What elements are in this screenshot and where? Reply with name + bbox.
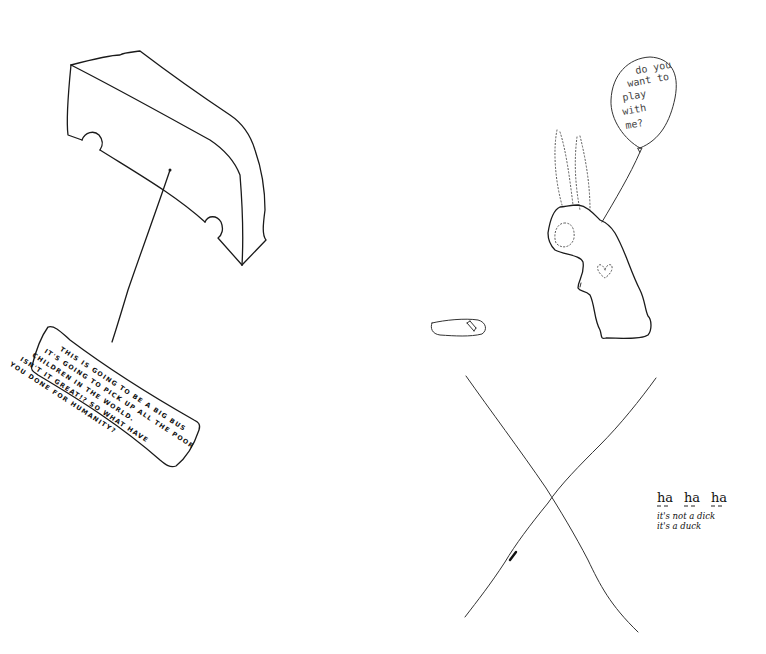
drawing-canvas: THIS IS GOING TO BE A BIG BUS IT'S GOING…: [0, 0, 766, 654]
balloon: do you want to play with me?: [602, 57, 676, 222]
sign-pole: [112, 170, 170, 342]
balloon-line-5: me?: [624, 117, 644, 131]
sign-text-block: THIS IS GOING TO BE A BIG BUS IT'S GOING…: [7, 326, 201, 475]
balloon-line-3: play: [621, 88, 647, 103]
laugh-2: ha: [684, 490, 700, 505]
duck-line-2: it's a duck: [657, 521, 701, 531]
laugh-1: ha: [657, 490, 673, 505]
shoe-drawing: [431, 319, 485, 336]
balloon-line-2: want to: [626, 71, 669, 89]
duck-line-1: it's not a dick: [657, 511, 715, 521]
balloon-line-4: with: [621, 102, 647, 117]
laugh-3: ha: [711, 490, 727, 505]
cross-drawing: [465, 376, 656, 632]
sign-board: THIS IS GOING TO BE A BIG BUS IT'S GOING…: [7, 326, 201, 475]
bus-drawing: [67, 51, 266, 265]
duck-note: ha ha ha it's not a dick it's a duck: [657, 490, 727, 531]
